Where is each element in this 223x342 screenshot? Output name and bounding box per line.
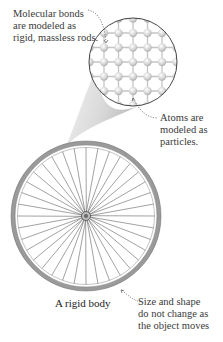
atom [100,58,108,66]
atom [129,43,137,51]
wheel-spoke [87,219,110,280]
atom [158,101,166,109]
atom [129,72,137,80]
wheel-spoke [19,216,83,228]
rigid-body-diagram [0,0,223,342]
wheel-spoke [89,217,150,240]
wheel-spoke [52,157,84,213]
atom [158,58,166,66]
atom [114,72,122,80]
atom [143,43,151,51]
bicycle-wheel [11,141,161,291]
wheel-spoke [74,219,86,283]
atom [114,87,122,95]
atom [158,87,166,95]
atom [100,14,108,22]
atom [158,43,166,51]
wheel-spoke [88,219,120,275]
wheel-spoke [42,218,84,268]
wheel-spoke [63,152,86,213]
atom [158,14,166,22]
atoms-annotation: Atoms are modeled as particles. [160,112,208,148]
atom [114,29,122,37]
atom [100,43,108,51]
atom [129,87,137,95]
wheel-spoke [27,217,83,250]
wheel-spoke [86,149,98,213]
wheel-spoke [88,172,138,214]
atom [158,72,166,80]
shape-leader-arrow [121,290,124,293]
wheel-spoke [22,217,83,239]
atom [129,58,137,66]
atom [100,29,108,37]
atom [143,29,151,37]
wheel-spoke [89,204,153,216]
wheel-spoke [89,182,145,215]
figure-caption: A rigid body [55,297,111,309]
wheel-spoke [87,157,120,213]
atom [172,101,180,109]
atom [129,29,137,37]
atom [100,72,108,80]
wheel-spoke [34,218,84,260]
atom [114,43,122,51]
atom [143,72,151,80]
wheel-spoke [89,218,145,250]
wheel-spoke [52,219,85,275]
wheel-spoke [63,219,85,280]
wheel-spoke [27,182,83,214]
atom [143,87,151,95]
atom [114,58,122,66]
shape-annotation: Size and shape do not change as the obje… [138,296,209,332]
atom [172,29,180,37]
wheel-spoke [88,164,130,214]
atom [172,14,180,22]
atom [143,58,151,66]
wheel-spoke [89,193,150,215]
wheel-spoke [87,152,109,213]
atom [158,29,166,37]
wheel-spoke [22,193,83,216]
bonds-annotation: Molecular bonds are modeled as rigid, ma… [13,8,98,44]
atom [172,87,180,95]
